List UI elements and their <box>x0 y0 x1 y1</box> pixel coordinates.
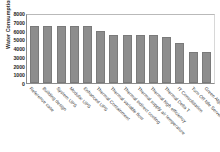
y-axis-tick: 5000 <box>13 38 25 43</box>
y-axis-tick: 0 <box>22 82 25 87</box>
bar <box>70 26 79 83</box>
bar <box>43 26 52 83</box>
bar <box>109 35 118 83</box>
bar <box>123 35 132 83</box>
y-axis-tick: 4000 <box>13 47 25 52</box>
y-axis-tick: 3000 <box>13 55 25 60</box>
y-axis-tick: 7000 <box>13 20 25 25</box>
bar <box>136 35 145 83</box>
y-axis-tick: 1000 <box>13 73 25 78</box>
bar <box>175 43 184 83</box>
water-consumption-bar-chart: Water Consumption (m³) 80007000600050004… <box>0 0 220 152</box>
bar <box>30 26 39 83</box>
bar <box>57 26 66 83</box>
bar <box>149 35 158 83</box>
bar <box>202 52 211 84</box>
bar <box>189 52 198 84</box>
y-axis-tick: 6000 <box>13 29 25 34</box>
y-axis-tick-labels: 800070006000500040003000200010000 <box>9 10 25 88</box>
x-axis-tick-labels: Reference caseBuilding designSystem UPSM… <box>26 86 215 150</box>
bar <box>83 26 92 83</box>
plot-area <box>26 14 215 84</box>
bar-series <box>27 15 214 83</box>
y-axis-tick: 8000 <box>13 12 25 17</box>
bar <box>162 37 171 83</box>
y-axis-tick: 2000 <box>13 64 25 69</box>
bar <box>96 31 105 83</box>
